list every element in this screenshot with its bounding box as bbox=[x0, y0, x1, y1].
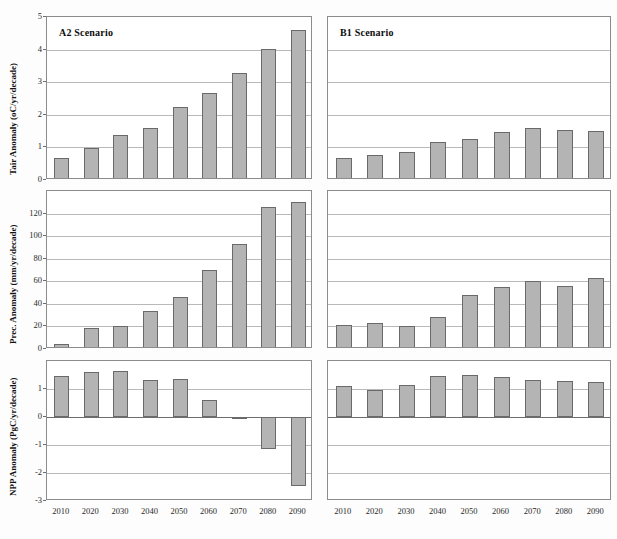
plot-frame: B1 Scenario bbox=[327, 16, 611, 179]
x-tick-label: 2020 bbox=[359, 507, 391, 516]
plot-frame bbox=[327, 360, 611, 500]
bar[interactable] bbox=[399, 152, 415, 179]
bar[interactable] bbox=[113, 135, 128, 179]
bar[interactable] bbox=[143, 311, 158, 348]
figure-canvas: A2 Scenario012345Tair Anomaly (oC/yr/dec… bbox=[0, 0, 617, 539]
bar[interactable] bbox=[336, 386, 352, 417]
x-axis-labels-a2: 201020202030204020502060207020802090 bbox=[46, 507, 312, 516]
y-tick-mark bbox=[43, 49, 46, 50]
bar[interactable] bbox=[588, 131, 604, 179]
bar[interactable] bbox=[202, 93, 217, 179]
y-tick-mark bbox=[43, 303, 46, 304]
bar[interactable] bbox=[462, 375, 478, 417]
bar[interactable] bbox=[261, 49, 276, 179]
bar[interactable] bbox=[525, 128, 541, 179]
bar[interactable] bbox=[202, 400, 217, 417]
y-tick-label: 1 bbox=[16, 142, 42, 151]
bar[interactable] bbox=[202, 270, 217, 348]
bar[interactable] bbox=[525, 281, 541, 348]
bar[interactable] bbox=[232, 73, 247, 179]
bar[interactable] bbox=[367, 390, 383, 417]
bar[interactable] bbox=[173, 379, 188, 417]
y-tick-mark bbox=[43, 235, 46, 236]
bar[interactable] bbox=[462, 139, 478, 179]
bar[interactable] bbox=[430, 317, 446, 348]
y-tick-label: 1 bbox=[16, 384, 42, 393]
y-tick-mark bbox=[43, 179, 46, 180]
y-tick-label: 0 bbox=[16, 412, 42, 421]
y-tick-label: -3 bbox=[16, 496, 42, 505]
y-tick-mark bbox=[43, 444, 46, 445]
bar[interactable] bbox=[291, 417, 306, 486]
y-tick-label: -2 bbox=[16, 468, 42, 477]
y-tick-mark bbox=[43, 325, 46, 326]
bar[interactable] bbox=[494, 287, 510, 348]
bar[interactable] bbox=[336, 158, 352, 179]
bar[interactable] bbox=[84, 328, 99, 348]
bars-group bbox=[328, 361, 610, 499]
bar[interactable] bbox=[54, 158, 69, 179]
y-tick-label: 5 bbox=[16, 12, 42, 21]
bar[interactable] bbox=[430, 142, 446, 179]
bar[interactable] bbox=[494, 377, 510, 417]
y-tick-mark bbox=[43, 81, 46, 82]
panel-b1-npp bbox=[327, 360, 611, 500]
panel-b1-prec bbox=[327, 190, 611, 348]
bar[interactable] bbox=[143, 128, 158, 179]
bars-group bbox=[47, 191, 311, 347]
bar[interactable] bbox=[367, 155, 383, 179]
bar[interactable] bbox=[336, 325, 352, 348]
bar[interactable] bbox=[143, 380, 158, 417]
x-tick-label: 2050 bbox=[453, 507, 485, 516]
bar[interactable] bbox=[232, 417, 247, 419]
x-tick-label: 2010 bbox=[46, 507, 76, 516]
bar[interactable] bbox=[494, 132, 510, 179]
bar[interactable] bbox=[113, 326, 128, 348]
y-tick-mark bbox=[43, 16, 46, 17]
bar[interactable] bbox=[557, 381, 573, 417]
y-tick-mark bbox=[43, 416, 46, 417]
plot-frame bbox=[46, 190, 312, 348]
x-tick-label: 2080 bbox=[253, 507, 283, 516]
x-tick-label: 2010 bbox=[327, 507, 359, 516]
bar[interactable] bbox=[261, 417, 276, 449]
y-axis-tair: 012345 bbox=[16, 16, 42, 179]
bar[interactable] bbox=[261, 207, 276, 348]
y-tick-label: 3 bbox=[16, 77, 42, 86]
bar[interactable] bbox=[232, 244, 247, 348]
bar[interactable] bbox=[173, 297, 188, 348]
bar[interactable] bbox=[557, 286, 573, 348]
y-tick-mark bbox=[43, 213, 46, 214]
bar[interactable] bbox=[588, 382, 604, 417]
x-axis-labels-b1: 201020202030204020502060207020802090 bbox=[327, 507, 611, 516]
bar[interactable] bbox=[291, 202, 306, 348]
bar[interactable] bbox=[84, 148, 99, 179]
bar[interactable] bbox=[173, 107, 188, 179]
y-tick-mark bbox=[43, 472, 46, 473]
bar[interactable] bbox=[113, 371, 128, 417]
bar[interactable] bbox=[399, 326, 415, 348]
bar[interactable] bbox=[525, 380, 541, 417]
bar[interactable] bbox=[367, 323, 383, 348]
bar[interactable] bbox=[399, 385, 415, 417]
bar[interactable] bbox=[557, 130, 573, 179]
plot-frame: A2 Scenario bbox=[46, 16, 312, 179]
x-tick-label: 2070 bbox=[516, 507, 548, 516]
panel-title-b1: B1 Scenario bbox=[340, 27, 394, 38]
y-axis-title-tair: Tair Anomaly (oC/yr/decade) bbox=[8, 63, 18, 175]
bar[interactable] bbox=[84, 372, 99, 417]
y-tick-label: 4 bbox=[16, 45, 42, 54]
bar[interactable] bbox=[54, 376, 69, 417]
panel-a2-tair: A2 Scenario bbox=[46, 16, 312, 179]
y-tick-mark bbox=[43, 500, 46, 501]
bar[interactable] bbox=[430, 376, 446, 417]
y-tick-label: -1 bbox=[16, 440, 42, 449]
y-tick-label: 0 bbox=[16, 175, 42, 184]
y-axis-npp: -3-2-101 bbox=[16, 360, 42, 500]
y-tick-mark bbox=[43, 280, 46, 281]
bar[interactable] bbox=[462, 295, 478, 348]
y-axis-prec: 020406080100120 bbox=[16, 190, 42, 348]
bar[interactable] bbox=[54, 344, 69, 348]
bar[interactable] bbox=[588, 278, 604, 348]
bar[interactable] bbox=[291, 30, 306, 179]
